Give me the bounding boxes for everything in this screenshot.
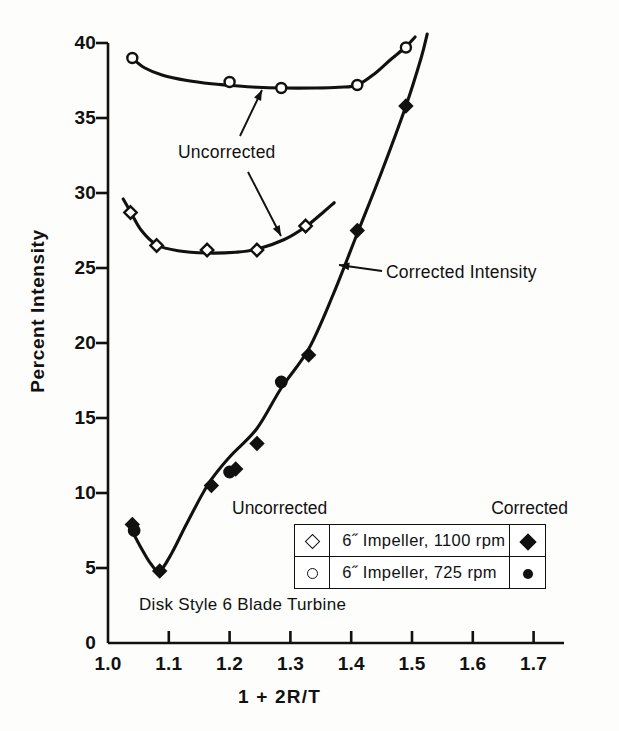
- legend-body: 6˝ Impeller, 1100 rpm6˝ Impeller, 725 rp…: [295, 525, 546, 589]
- legend-row: 6˝ Impeller, 725 rpm: [295, 557, 546, 589]
- legend-label: 6˝ Impeller, 1100 rpm: [330, 525, 510, 557]
- data-point-filled-diamond: [302, 348, 315, 361]
- turbine-caption: Disk Style 6 Blade Turbine: [139, 595, 346, 615]
- leader-uncorrected-lower-head: [273, 225, 281, 236]
- filled-circle-icon: [523, 569, 533, 579]
- y-tick-5: 5: [40, 557, 96, 579]
- y-tick-30: 30: [40, 182, 96, 204]
- leader-uncorrected-lower: [248, 172, 281, 236]
- legend-uncorrected-marker-cell: [295, 525, 330, 557]
- legend-row: 6˝ Impeller, 1100 rpm: [295, 525, 546, 557]
- data-point-open-circle: [127, 53, 137, 63]
- y-tick-10: 10: [40, 482, 96, 504]
- chart-figure: 0510152025303540 1.01.11.21.31.41.51.61.…: [0, 0, 619, 731]
- legend: Uncorrected Corrected 6˝ Impeller, 1100 …: [294, 498, 546, 589]
- data-point-filled-circle: [224, 466, 235, 477]
- x-tick-1.1: 1.1: [155, 653, 182, 675]
- data-point-open-circle: [352, 80, 362, 90]
- leader-uncorrected-upper-head: [254, 90, 262, 101]
- legend-header-uncorrected: Uncorrected: [232, 498, 327, 519]
- annotation-corrected-intensity: Corrected Intensity: [386, 262, 537, 283]
- open-diamond-icon: [304, 534, 320, 550]
- data-point-open-diamond: [251, 244, 263, 256]
- legend-header-corrected: Corrected: [491, 498, 568, 519]
- legend-corrected-marker-cell: [510, 557, 546, 589]
- curves: [123, 34, 427, 571]
- legend-label: 6˝ Impeller, 725 rpm: [330, 557, 510, 589]
- annotation-uncorrected: Uncorrected: [178, 142, 276, 163]
- x-axis-title: 1 + 2R/T: [238, 686, 321, 708]
- x-tick-1.3: 1.3: [277, 653, 304, 675]
- y-axis-title: Percent Intensity: [27, 211, 49, 411]
- data-point-filled-diamond: [205, 479, 218, 492]
- data-point-filled-diamond: [250, 437, 263, 450]
- legend-table: 6˝ Impeller, 1100 rpm6˝ Impeller, 725 rp…: [294, 524, 546, 589]
- x-tick-1.7: 1.7: [520, 653, 547, 675]
- data-point-filled-circle: [276, 376, 287, 387]
- data-point-open-circle: [401, 43, 411, 53]
- x-tick-1.4: 1.4: [338, 653, 365, 675]
- data-point-filled-circle: [129, 525, 140, 536]
- x-tick-1.5: 1.5: [398, 653, 425, 675]
- y-tick-0: 0: [40, 632, 96, 654]
- curve-uncorrected-725: [131, 37, 415, 88]
- data-point-filled-diamond: [399, 99, 412, 112]
- x-tick-1.2: 1.2: [216, 653, 243, 675]
- y-tick-40: 40: [40, 32, 96, 54]
- legend-uncorrected-marker-cell: [295, 557, 330, 589]
- x-tick-1.6: 1.6: [459, 653, 486, 675]
- data-point-open-circle: [276, 83, 286, 93]
- legend-headers: Uncorrected Corrected: [294, 498, 546, 522]
- data-point-open-circle: [225, 77, 235, 87]
- filled-diamond-icon: [519, 533, 536, 550]
- x-tick-1.0: 1.0: [94, 653, 121, 675]
- y-tick-35: 35: [40, 107, 96, 129]
- annotation-leaders: [240, 90, 382, 271]
- legend-corrected-marker-cell: [510, 525, 546, 557]
- open-circle-icon: [307, 568, 318, 579]
- curve-corrected: [131, 34, 427, 571]
